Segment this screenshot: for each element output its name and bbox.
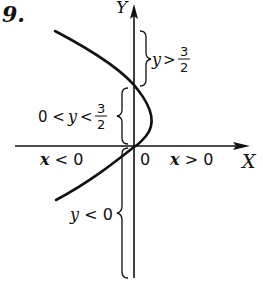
problem-number: 9.	[2, 1, 25, 27]
x-positive-label: x > 0	[169, 150, 213, 169]
y-negative-label: y < 0	[69, 205, 113, 224]
y-between-op: <	[80, 108, 93, 126]
brace-y-negative	[117, 148, 128, 278]
parabola-diagram: 9. X Y 0 x < 0 x > 0 y > 3 2 0 < y < 3 2…	[0, 0, 263, 282]
y-above-op: >	[163, 51, 176, 69]
y-between-prefix: 0 <	[38, 108, 65, 126]
y-above-frac-den: 2	[180, 60, 188, 75]
y-between-var: y	[67, 107, 78, 126]
origin-label: 0	[140, 150, 150, 169]
x-negative-label: x < 0	[39, 150, 83, 169]
brace-y-between	[117, 88, 128, 144]
y-above-var: y	[151, 50, 162, 69]
brace-y-above	[140, 31, 151, 86]
x-axis-label: X	[240, 150, 257, 172]
y-axis-label: Y	[116, 0, 129, 17]
y-above-frac-num: 3	[180, 44, 188, 59]
y-between-frac-den: 2	[97, 117, 105, 132]
y-between-frac-num: 3	[97, 101, 105, 116]
